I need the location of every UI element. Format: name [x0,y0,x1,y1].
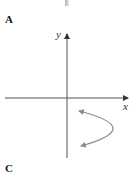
parabola-curve [79,111,113,146]
panel-label-a: A [5,14,13,25]
x-axis-label: x [123,101,128,112]
top-fragment-lines [66,0,68,6]
panel-label-c: C [5,163,13,174]
y-axis-label: y [56,29,61,40]
axes-graphic [0,0,133,175]
